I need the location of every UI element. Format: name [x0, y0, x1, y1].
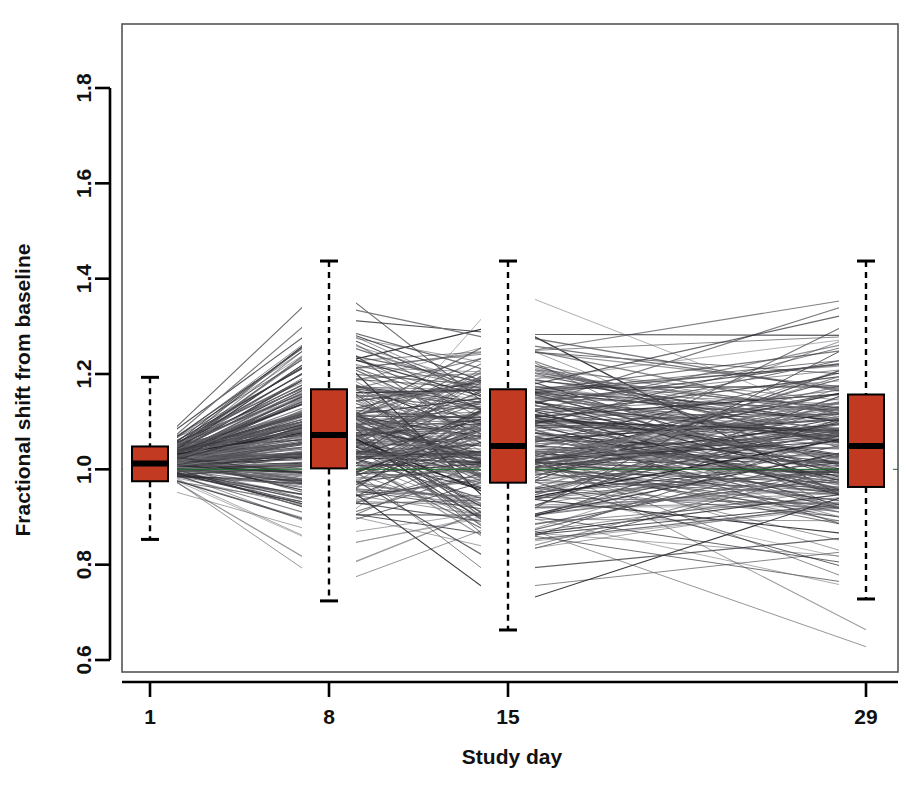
y-axis-tick-label: 0.6	[72, 645, 95, 674]
spaghetti-boxplot-chart: 181529 0.60.81.01.21.41.61.8 Study day F…	[0, 0, 915, 794]
x-axis-title: Study day	[462, 745, 563, 768]
x-axis-tick-label: 8	[323, 705, 335, 728]
boxplot-day-29	[839, 256, 893, 604]
iqr-box	[311, 389, 347, 468]
x-axis-tick-label: 29	[854, 705, 877, 728]
y-axis-tick-label: 1.4	[72, 264, 95, 294]
x-axis-tick-label: 1	[144, 705, 156, 728]
y-axis-tick-label: 1.6	[72, 169, 95, 198]
y-axis-title: Fractional shift from baseline	[11, 244, 34, 537]
y-axis-tick-label: 1.8	[72, 73, 95, 103]
boxplot-day-15	[481, 256, 535, 635]
boxplot-day-8	[302, 256, 356, 606]
y-axis-tick-label: 1.0	[72, 455, 95, 484]
boxplot-day-1	[123, 372, 177, 544]
iqr-box	[490, 389, 526, 482]
iqr-box	[848, 394, 884, 486]
figure-container: 181529 0.60.81.01.21.41.61.8 Study day F…	[0, 0, 915, 794]
y-axis-tick-label: 0.8	[72, 550, 95, 580]
x-axis-tick-label: 15	[496, 705, 520, 728]
y-axis-tick-label: 1.2	[72, 359, 95, 388]
